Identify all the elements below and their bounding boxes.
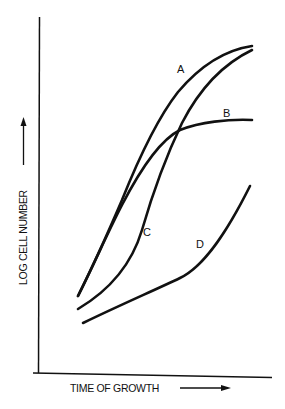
growth-curves-chart: A B C D LOG CELL NUMBER TIME OF GROWTH [0, 0, 285, 409]
curve-d-label: D [196, 238, 204, 250]
x-axis-label: TIME OF GROWTH [70, 382, 159, 394]
curve-b-label: B [223, 107, 230, 119]
curve-c-label: C [143, 226, 151, 238]
y-axis [39, 17, 40, 373]
x-axis-arrow-icon [180, 385, 231, 391]
x-axis [33, 373, 272, 378]
curve-a-label: A [177, 63, 185, 75]
curve-d [83, 186, 250, 323]
y-axis-label: LOG CELL NUMBER [17, 189, 29, 285]
curve-a [78, 46, 252, 296]
curve-b [78, 120, 252, 296]
y-axis-arrow-icon [21, 117, 27, 165]
curve-c [78, 50, 252, 309]
